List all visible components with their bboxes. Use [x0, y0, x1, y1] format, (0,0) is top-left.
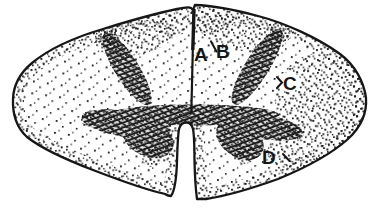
spinal-cord-cross-section-diagram: A B C D: [0, 0, 373, 211]
label-c: C: [283, 73, 297, 94]
label-d: D: [262, 147, 276, 168]
posterior-median-septum-line-lower: [191, 50, 193, 113]
label-b: B: [216, 41, 230, 62]
figure: A B C D: [0, 0, 373, 211]
label-a: A: [194, 44, 208, 65]
